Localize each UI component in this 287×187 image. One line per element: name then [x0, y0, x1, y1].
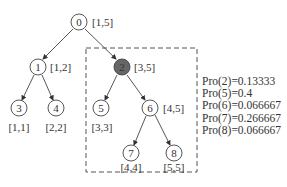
- tree-node-8: 8 [5,5]: [163, 145, 184, 173]
- svg-text:8: 8: [171, 147, 177, 159]
- probability-item: Pro(5)=0.4: [202, 87, 281, 99]
- edge-2-5: [105, 75, 117, 100]
- probability-list: Pro(2)=0.13333 Pro(5)=0.4 Pro(6)=0.06666…: [202, 75, 281, 136]
- svg-text:[4,4]: [4,4]: [120, 161, 141, 173]
- tree-node-3: 3 [1,1]: [8, 100, 29, 133]
- svg-text:[3,3]: [3,3]: [91, 121, 112, 133]
- svg-text:4: 4: [53, 102, 59, 114]
- svg-text:[5,5]: [5,5]: [163, 161, 184, 173]
- edge-6-8: [155, 115, 170, 145]
- tree-node-7: 7 [4,4]: [120, 145, 141, 173]
- tree-node-5: 5 [3,3]: [91, 100, 112, 133]
- svg-text:0: 0: [76, 16, 82, 28]
- svg-text:[2,2]: [2,2]: [45, 121, 66, 133]
- svg-text:[4,5]: [4,5]: [163, 102, 184, 114]
- edge-0-1: [43, 29, 73, 59]
- svg-text:3: 3: [16, 102, 22, 114]
- tree-node-6: 6 [4,5]: [142, 100, 184, 116]
- svg-text:6: 6: [147, 102, 153, 114]
- tree-node-2-highlighted: 2 [3,5]: [114, 59, 155, 75]
- probability-item: Pro(8)=0.066667: [202, 124, 281, 136]
- tree-node-4: 4 [2,2]: [45, 100, 66, 133]
- edge-6-7: [134, 116, 146, 145]
- edge-1-3: [22, 75, 34, 100]
- svg-text:[3,5]: [3,5]: [134, 61, 155, 73]
- probability-item: Pro(2)=0.13333: [202, 75, 281, 87]
- probability-item: Pro(7)=0.266667: [202, 112, 281, 124]
- svg-text:7: 7: [128, 147, 134, 159]
- svg-text:2: 2: [119, 61, 125, 73]
- probability-item: Pro(6)=0.066667: [202, 99, 281, 111]
- svg-text:5: 5: [98, 102, 104, 114]
- svg-text:[1,5]: [1,5]: [92, 16, 113, 28]
- svg-text:[1,1]: [1,1]: [8, 121, 29, 133]
- svg-text:[1,2]: [1,2]: [50, 61, 71, 73]
- tree-node-1: 1 [1,2]: [30, 59, 71, 75]
- edge-1-4: [42, 75, 53, 100]
- edge-2-6: [127, 75, 145, 100]
- svg-text:1: 1: [35, 61, 41, 73]
- edge-0-2: [85, 29, 116, 59]
- tree-node-0: 0 [1,5]: [71, 14, 113, 30]
